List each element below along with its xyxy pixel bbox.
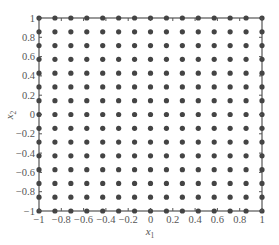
y-tick-label: 0.2: [22, 90, 35, 101]
data-point: [68, 167, 73, 172]
data-point: [36, 181, 41, 186]
data-point: [212, 139, 217, 144]
data-point: [196, 57, 201, 62]
data-point: [212, 98, 217, 103]
data-point: [212, 112, 217, 117]
data-point: [148, 112, 153, 117]
data-point: [116, 57, 121, 62]
data-point: [68, 139, 73, 144]
x-tick-label: 1: [259, 214, 264, 225]
y-tick-label: −0.2: [16, 128, 35, 139]
data-point: [259, 126, 264, 131]
data-point: [164, 139, 169, 144]
data-point: [68, 112, 73, 117]
data-point: [100, 15, 105, 20]
data-point: [164, 29, 169, 34]
data-point: [148, 153, 153, 158]
data-point: [196, 126, 201, 131]
data-point: [148, 84, 153, 89]
data-point: [116, 98, 121, 103]
data-point: [259, 181, 264, 186]
data-point: [148, 167, 153, 172]
data-point: [212, 57, 217, 62]
data-point: [180, 181, 185, 186]
data-point: [228, 139, 233, 144]
data-point: [180, 15, 185, 20]
data-point: [84, 153, 89, 158]
data-point: [84, 15, 89, 20]
data-point: [180, 84, 185, 89]
data-point: [100, 167, 105, 172]
data-point: [196, 195, 201, 200]
data-point: [100, 112, 105, 117]
data-point: [84, 71, 89, 76]
data-point: [132, 29, 137, 34]
data-point: [243, 15, 248, 20]
data-point: [164, 181, 169, 186]
y-tick-label: 0.4: [22, 70, 36, 81]
data-point: [132, 167, 137, 172]
data-point: [36, 57, 41, 62]
data-point: [84, 195, 89, 200]
data-point: [100, 139, 105, 144]
data-point: [243, 43, 248, 48]
data-point: [132, 15, 137, 20]
data-point: [259, 29, 264, 34]
data-point: [212, 126, 217, 131]
data-point: [180, 71, 185, 76]
y-tick-label: −0.4: [16, 148, 36, 159]
data-point: [132, 71, 137, 76]
y-tick-label: 1: [30, 13, 35, 24]
data-point: [132, 43, 137, 48]
data-point: [100, 153, 105, 158]
data-point: [196, 98, 201, 103]
data-point: [243, 126, 248, 131]
data-point: [100, 126, 105, 131]
data-point: [132, 98, 137, 103]
data-point: [180, 98, 185, 103]
data-point: [132, 84, 137, 89]
data-point: [116, 15, 121, 20]
data-point: [228, 112, 233, 117]
data-point: [180, 195, 185, 200]
data-point: [84, 57, 89, 62]
data-point: [228, 71, 233, 76]
data-point: [228, 98, 233, 103]
data-point: [148, 43, 153, 48]
data-point: [68, 153, 73, 158]
data-point: [228, 181, 233, 186]
y-tick-label: 0: [30, 109, 35, 120]
data-point: [212, 208, 217, 213]
data-point: [212, 181, 217, 186]
x-tick-label: −0.2: [119, 214, 138, 225]
data-point: [68, 71, 73, 76]
data-point: [228, 195, 233, 200]
data-point: [52, 126, 57, 131]
data-point: [36, 29, 41, 34]
data-point: [68, 15, 73, 20]
data-point: [68, 43, 73, 48]
data-point: [84, 167, 89, 172]
data-point: [243, 112, 248, 117]
data-point: [243, 29, 248, 34]
data-point: [259, 84, 264, 89]
data-point: [116, 43, 121, 48]
data-point: [68, 57, 73, 62]
data-point: [148, 71, 153, 76]
data-point: [52, 71, 57, 76]
data-point: [164, 15, 169, 20]
data-point: [52, 43, 57, 48]
data-point: [52, 15, 57, 20]
data-point: [100, 84, 105, 89]
data-point: [52, 153, 57, 158]
data-point: [52, 195, 57, 200]
data-point: [212, 167, 217, 172]
x-tick-label: 0.6: [211, 214, 224, 225]
data-point: [52, 29, 57, 34]
data-point: [196, 153, 201, 158]
data-point: [36, 84, 41, 89]
data-point: [132, 195, 137, 200]
data-point: [180, 43, 185, 48]
data-point: [196, 112, 201, 117]
data-point: [148, 98, 153, 103]
